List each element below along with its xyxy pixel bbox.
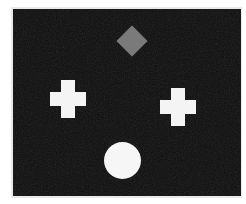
dark-noise-panel [13,9,241,196]
cross-vertical-bar [171,88,185,126]
diamond-fill [116,25,147,56]
image-canvas [0,0,246,204]
cross-shape-right [160,88,196,126]
circle-shape [104,142,141,179]
diamond-shape [116,25,147,56]
cross-shape-left [50,80,86,118]
cross-vertical-bar [61,80,75,118]
